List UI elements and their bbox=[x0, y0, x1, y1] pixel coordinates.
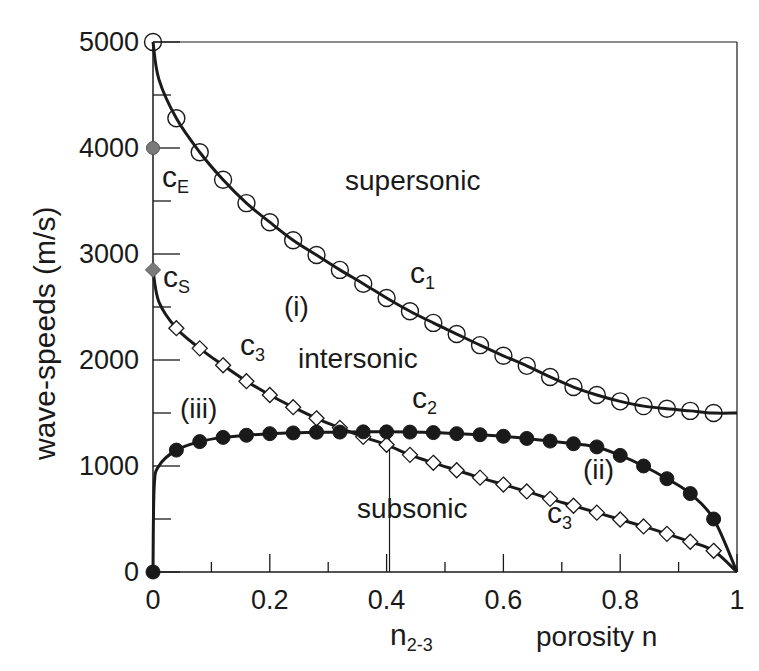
c3-main: c bbox=[240, 328, 255, 361]
c2-marker bbox=[566, 437, 580, 451]
x-tick-label: 0.2 bbox=[230, 587, 310, 614]
c2-marker bbox=[356, 425, 370, 439]
c3-sub: 3 bbox=[255, 345, 265, 365]
c2-main: c bbox=[412, 381, 427, 414]
c2-marker bbox=[496, 429, 510, 443]
c3-marker bbox=[239, 374, 254, 389]
c3-marker bbox=[519, 484, 534, 499]
c3-lower-label: c3 bbox=[547, 498, 572, 532]
c3-marker bbox=[402, 447, 417, 462]
c3-marker bbox=[309, 411, 324, 426]
c2-marker bbox=[216, 430, 230, 444]
c3-main: c bbox=[547, 496, 562, 529]
c3-marker bbox=[473, 470, 488, 485]
cE-sub: E bbox=[177, 177, 189, 197]
c1-main: c bbox=[410, 256, 425, 289]
c2-marker bbox=[403, 425, 417, 439]
region-ii-label: (ii) bbox=[583, 456, 614, 484]
x-tick-label: 0.8 bbox=[580, 587, 660, 614]
c2-marker bbox=[426, 426, 440, 440]
y-axis-label: wave-speeds (m/s) bbox=[30, 207, 60, 460]
region-iii-label: (iii) bbox=[180, 395, 217, 423]
c2-marker bbox=[590, 440, 604, 454]
c2-marker bbox=[193, 435, 207, 449]
c1-sub: 1 bbox=[425, 273, 435, 293]
c2-marker bbox=[333, 425, 347, 439]
cS-main: c bbox=[163, 260, 178, 293]
x-tick-label: 0 bbox=[113, 587, 193, 614]
intersonic-label: intersonic bbox=[298, 345, 418, 373]
c3-marker bbox=[589, 505, 604, 520]
c2-marker bbox=[146, 565, 160, 579]
n23-label: n2-3 bbox=[390, 620, 433, 654]
c3-marker bbox=[636, 519, 651, 534]
c2-marker bbox=[473, 428, 487, 442]
c2-marker bbox=[637, 459, 651, 473]
c2-sub: 2 bbox=[427, 398, 437, 418]
c2-marker bbox=[286, 426, 300, 440]
c2-marker bbox=[239, 428, 253, 442]
n23-main: n bbox=[390, 618, 407, 651]
c2-marker bbox=[380, 425, 394, 439]
c3-marker bbox=[613, 512, 628, 527]
cS-sub: S bbox=[178, 277, 190, 297]
y-tick-label: 0 bbox=[39, 559, 139, 586]
c3-marker bbox=[286, 400, 301, 415]
c3-upper-label: c3 bbox=[240, 330, 265, 364]
c3-marker bbox=[426, 455, 441, 470]
c3-marker bbox=[379, 437, 394, 452]
c2-marker bbox=[543, 434, 557, 448]
c2-marker bbox=[263, 427, 277, 441]
subsonic-label: subsonic bbox=[357, 495, 468, 523]
c2-label: c2 bbox=[412, 383, 437, 417]
cE-main: c bbox=[162, 160, 177, 193]
x-tick-label: 0.4 bbox=[347, 587, 427, 614]
region-i-label: (i) bbox=[284, 293, 309, 321]
c2-marker bbox=[450, 427, 464, 441]
c3-marker bbox=[262, 387, 277, 402]
special-point-cE bbox=[147, 142, 160, 155]
supersonic-label: supersonic bbox=[345, 167, 480, 195]
c3-sub: 3 bbox=[562, 513, 572, 533]
c3-marker bbox=[496, 477, 511, 492]
c3-marker bbox=[659, 526, 674, 541]
x-tick-label: 1 bbox=[697, 587, 759, 614]
special-point-cS bbox=[146, 262, 161, 277]
x-axis-label: porosity n bbox=[536, 623, 657, 651]
y-tick-label: 5000 bbox=[39, 29, 139, 56]
x-tick-label: 0.6 bbox=[463, 587, 543, 614]
c2-marker bbox=[310, 425, 324, 439]
c1-label: c1 bbox=[410, 258, 435, 292]
c2-marker bbox=[613, 448, 627, 462]
c3-marker bbox=[683, 534, 698, 549]
c2-marker bbox=[660, 472, 674, 486]
c2-marker bbox=[520, 431, 534, 445]
y-tick-label: 4000 bbox=[39, 135, 139, 162]
cE-label: cE bbox=[162, 162, 189, 196]
cS-label: cS bbox=[163, 262, 190, 296]
c3-marker bbox=[449, 463, 464, 478]
c2-marker bbox=[169, 443, 183, 457]
c2-marker bbox=[683, 487, 697, 501]
n23-sub: 2-3 bbox=[407, 635, 433, 655]
c2-marker bbox=[707, 512, 721, 526]
